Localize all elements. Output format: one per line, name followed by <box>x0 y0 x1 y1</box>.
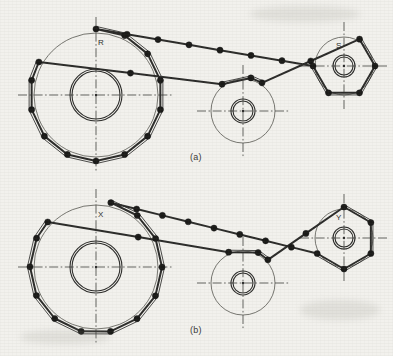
chain-pin <box>107 328 113 334</box>
chain-pin <box>255 249 261 255</box>
axis-center-mark <box>95 94 97 96</box>
chain-pin <box>288 244 294 250</box>
chain-pin <box>356 90 362 96</box>
axis-center-mark <box>343 65 345 67</box>
chain-pin <box>134 316 140 322</box>
chain-pin <box>368 219 374 225</box>
axis-center-mark <box>343 237 345 239</box>
chain-pin <box>134 206 140 212</box>
chain-pin <box>185 219 191 225</box>
chain-pin <box>93 26 99 32</box>
chain-pin <box>372 63 378 69</box>
chain-pin <box>219 81 225 87</box>
figure-caption-a: (a) <box>190 152 202 162</box>
chain-pin <box>157 77 163 83</box>
chain-pin <box>341 204 347 210</box>
chain-pin <box>248 75 254 81</box>
chain-pin <box>93 158 99 164</box>
chain-drive-figure: (a) (b) R S X Y <box>0 0 393 356</box>
chain-pin <box>159 264 165 270</box>
chain-pin <box>368 250 374 256</box>
chain-pin <box>127 70 133 76</box>
chain-pin <box>226 249 232 255</box>
chain-pin <box>265 257 271 263</box>
figure-caption-b: (b) <box>190 325 202 335</box>
chain-pin <box>157 107 163 113</box>
chain-pin <box>314 250 320 256</box>
engineering-drawing-canvas <box>0 0 393 356</box>
axis-center-mark <box>242 110 244 112</box>
chain-pin <box>152 293 158 299</box>
chain-pin <box>356 36 362 42</box>
sprocket-label-x: X <box>98 210 103 219</box>
chain-pin <box>52 315 58 321</box>
axis-center-mark <box>95 266 97 268</box>
chain-pin <box>36 59 42 65</box>
chain-pin <box>155 36 161 42</box>
axis-center-mark <box>242 282 244 284</box>
chain-pin <box>152 235 158 241</box>
chain-pin <box>145 133 151 139</box>
chain-pin <box>78 328 84 334</box>
chain-pin <box>237 231 243 237</box>
chain-pin <box>310 63 316 69</box>
sprocket-label-y: Y <box>336 213 341 222</box>
chain-pin <box>134 212 140 218</box>
chain-pin <box>64 151 70 157</box>
chain-pin <box>108 200 114 206</box>
chain-pin <box>33 292 39 298</box>
chain-pin <box>135 234 141 240</box>
chain-pin <box>159 212 165 218</box>
chain-pin <box>45 219 51 225</box>
chain-pin <box>145 51 151 57</box>
chain-pin <box>279 58 285 64</box>
chain-pin <box>217 47 223 53</box>
chain-pin <box>41 133 47 139</box>
chain-pin <box>325 90 331 96</box>
chain-pin <box>262 238 268 244</box>
chain-pin <box>248 52 254 58</box>
chain-pin <box>124 31 130 37</box>
chain-pin <box>303 230 309 236</box>
chain-pin <box>34 235 40 241</box>
chain-pin <box>122 151 128 157</box>
chain-pin <box>211 225 217 231</box>
sprocket-label-r: R <box>98 38 104 47</box>
chain-pin <box>259 80 265 86</box>
chain-pin <box>186 42 192 48</box>
sprocket-label-s: S <box>336 41 341 50</box>
chain-pin <box>341 266 347 272</box>
chain-pin <box>29 107 35 113</box>
chain-pin <box>27 264 33 270</box>
chain-pin <box>29 77 35 83</box>
